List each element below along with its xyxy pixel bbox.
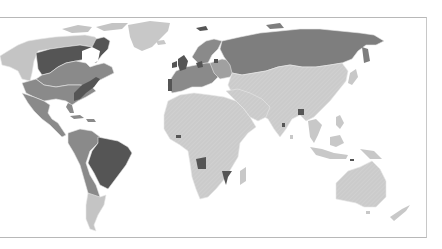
bangladesh [298,109,304,115]
west-africa-dark [176,135,181,138]
kamchatka [362,47,370,63]
arctic-islands [62,25,92,33]
portugal [168,79,172,91]
map-frame [0,17,427,238]
india-west-coast-dark [282,123,285,127]
southeast-asia [308,119,322,143]
madagascar [240,167,246,185]
tasmania [366,211,370,214]
japan [348,69,358,85]
australia [336,161,386,207]
indonesia [310,147,348,159]
new-zealand [390,205,410,221]
philippines [336,115,344,129]
world-map [0,18,427,238]
arctic-islands [96,23,128,31]
new-guinea [360,149,382,159]
argentina [86,193,106,231]
region-south-america [68,129,132,231]
svalbard [196,26,208,31]
belarus-dark [214,59,218,63]
sri-lanka [290,135,293,139]
greenland [128,21,170,51]
caribbean [86,119,96,122]
ireland [172,61,177,68]
timor-dark [350,159,354,161]
caribbean [70,115,84,119]
region-north-america [0,23,128,137]
russia-arctic-islands [266,23,284,29]
borneo [330,135,344,147]
